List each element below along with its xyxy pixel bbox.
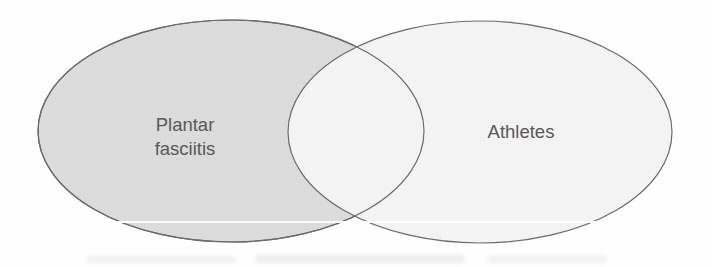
venn-label-plantar-fasciitis-line-1: Plantar [156,114,215,135]
venn-label-athletes: Athletes [488,121,555,142]
venn-label-plantar-fasciitis-line-2: fasciitis [155,138,216,159]
venn-diagram-canvas: Plantar fasciitis Athletes [0,0,712,267]
venn-circle-athletes[interactable] [288,21,672,243]
venn-diagram-figure: Plantar fasciitis Athletes [0,0,712,267]
